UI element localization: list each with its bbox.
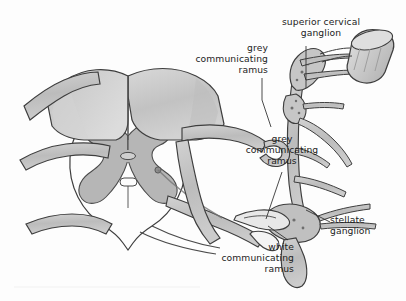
label-grey-communicating-ramus-lower: grey communicating ramus (240, 133, 324, 167)
anatomical-figure: superior cervical ganglion grey communic… (0, 0, 406, 301)
label-line: ganglion (330, 225, 400, 236)
central-canal (121, 152, 136, 159)
label-line: white (212, 241, 294, 252)
label-line: communicating (240, 144, 324, 155)
label-grey-communicating-ramus-upper: grey communicating ramus (186, 42, 268, 76)
label-line: ramus (212, 263, 294, 274)
label-line: ramus (186, 64, 268, 75)
label-line: grey (240, 133, 324, 144)
leader-grey-ramus-upper (262, 78, 271, 127)
label-white-communicating-ramus: white communicating ramus (212, 241, 294, 275)
label-stellate-ganglion: stellate ganglion (330, 214, 400, 236)
label-line: ganglion (268, 27, 374, 38)
label-line: superior cervical (268, 16, 374, 27)
label-line: communicating (186, 53, 268, 64)
label-line: ramus (240, 155, 324, 166)
label-superior-cervical-ganglion: superior cervical ganglion (268, 16, 374, 38)
label-line: stellate (330, 214, 400, 225)
superior-cervical-ganglion (290, 49, 325, 91)
label-line: communicating (212, 252, 294, 263)
label-line: grey (186, 42, 268, 53)
